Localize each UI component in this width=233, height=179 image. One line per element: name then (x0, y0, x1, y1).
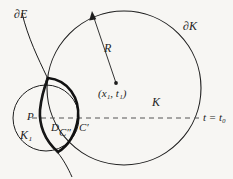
label-boundary-K: ∂K (183, 20, 197, 32)
label-region-K1: K₁ (20, 129, 32, 141)
bold-arc-C-double-prime (48, 78, 78, 152)
bold-curve-dE-segment (40, 78, 58, 152)
label-time-line: t = t₀ (203, 112, 226, 123)
geometry-diagram: ∂E ∂K R (x₁, t₁) K K₁ P D C″ C′ t = t₀ (0, 0, 233, 179)
label-region-D: D (51, 122, 59, 133)
label-curve-C-double-prime: C″ (59, 127, 71, 138)
center-point-dot (114, 81, 118, 85)
radius-arrowhead-icon (89, 11, 96, 20)
label-center-point: (x₁, t₁) (98, 88, 126, 99)
label-point-P: P (27, 111, 34, 122)
label-radius: R (104, 42, 111, 54)
label-curve-C-prime: C′ (79, 122, 89, 133)
label-boundary-E: ∂E (14, 8, 27, 20)
label-region-K: K (152, 96, 160, 108)
